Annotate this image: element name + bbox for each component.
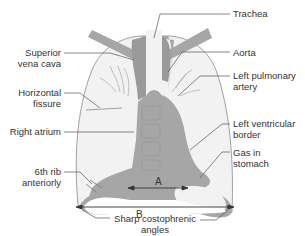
trachea-shape [146, 30, 162, 96]
label-trachea: Trachea [233, 8, 268, 19]
label-angles-line1: Sharp costophrenic [112, 213, 198, 224]
label-svc-line1: Superior [25, 47, 61, 58]
label-lpa-line1: Left pulmonary [233, 70, 296, 81]
label-aorta: Aorta [233, 47, 256, 58]
label-gas-line1: Gas in [233, 147, 260, 158]
leader-trachea [154, 14, 230, 38]
label-angles-line2: angles [112, 224, 198, 235]
label-hf-line2: fissure [33, 98, 61, 109]
label-rib-line1: 6th rib [35, 166, 61, 177]
measure-a-label: A [155, 176, 162, 187]
label-right-atrium: Right atrium [10, 126, 61, 137]
label-gas-line2: stomach [233, 158, 269, 169]
label-svc-line2: vena cava [18, 58, 61, 69]
label-lvb-line1: Left ventricular [233, 118, 295, 129]
label-lvb-line2: border [233, 129, 260, 140]
measure-b-label: B [136, 209, 143, 220]
label-lpa-line2: artery [233, 81, 257, 92]
label-rib-line2: anteriorly [22, 177, 61, 188]
label-hf-line1: Horizontal [18, 87, 61, 98]
